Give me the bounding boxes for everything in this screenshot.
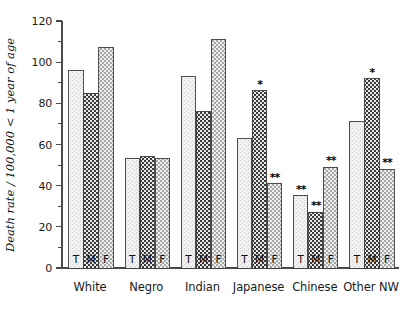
significance-mark: ** [382, 156, 393, 169]
y-axis-title: Death rate / 100,000 < 1 year of age [3, 38, 17, 253]
bar-letter-f: F [215, 253, 221, 265]
bar-negro-m [140, 157, 154, 268]
bar-letter-f: F [272, 253, 278, 265]
x-group-label-indian: Indian [185, 280, 220, 294]
bar-letter-f: F [384, 253, 390, 265]
bar-letter-t: T [240, 253, 248, 265]
bar-chart: Death rate / 100,000 < 1 year of age 020… [0, 0, 407, 310]
bar-negro-f [155, 159, 169, 268]
bar-letter-t: T [128, 253, 136, 265]
bar-letter-t: T [72, 253, 80, 265]
significance-mark: * [257, 78, 263, 91]
y-tick-label: 0 [45, 262, 52, 275]
bar-letter-m: M [255, 253, 264, 265]
bar-letter-m: M [199, 253, 208, 265]
bar-letter-f: F [103, 253, 109, 265]
chart-container: Death rate / 100,000 < 1 year of age 020… [0, 0, 407, 310]
y-tick-label: 60 [38, 139, 52, 152]
x-group-label-other-nw: Other NW [343, 280, 398, 294]
bars-layer [69, 40, 394, 268]
bar-indian-m [196, 112, 210, 268]
bar-letters-layer: TMFTMFTMFTMFTMFTMF [72, 253, 390, 265]
bar-other-nw-m [365, 79, 379, 268]
significance-mark: * [370, 66, 376, 79]
x-group-label-chinese: Chinese [292, 280, 337, 294]
bar-letter-f: F [328, 253, 334, 265]
y-axis: 020406080100120 [32, 15, 62, 275]
bar-letter-t: T [297, 253, 305, 265]
y-axis-label-text: Death rate / 100,000 < 1 year of age [3, 38, 17, 253]
bar-white-t [69, 70, 83, 268]
bar-letter-f: F [159, 253, 165, 265]
y-tick-label: 80 [38, 97, 52, 110]
bar-indian-f [211, 40, 225, 268]
bar-japanese-t [237, 138, 251, 268]
significance-mark: ** [296, 183, 307, 196]
x-group-label-white: White [74, 280, 107, 294]
bar-letter-m: M [311, 253, 320, 265]
bar-japanese-m [252, 91, 266, 268]
y-tick-label: 120 [32, 15, 53, 28]
y-tick-label: 20 [38, 221, 52, 234]
bar-negro-t [125, 159, 139, 268]
significance-mark: ** [326, 154, 337, 167]
x-group-label-japanese: Japanese [232, 280, 284, 294]
y-tick-label: 100 [32, 56, 53, 69]
y-tick-label: 40 [38, 180, 52, 193]
bar-letter-m: M [143, 253, 152, 265]
bar-indian-t [181, 77, 195, 268]
bar-letter-m: M [87, 253, 96, 265]
bar-letter-t: T [353, 253, 361, 265]
significance-mark: ** [311, 199, 322, 212]
group-labels-layer: WhiteNegroIndianJapaneseChineseOther NW [74, 280, 399, 294]
significance-mark: ** [270, 171, 281, 184]
bar-letter-t: T [184, 253, 192, 265]
bar-letter-m: M [367, 253, 376, 265]
bar-white-m [84, 93, 98, 268]
bar-other-nw-t [350, 122, 364, 268]
bar-white-f [99, 48, 113, 268]
x-group-label-negro: Negro [129, 280, 163, 294]
